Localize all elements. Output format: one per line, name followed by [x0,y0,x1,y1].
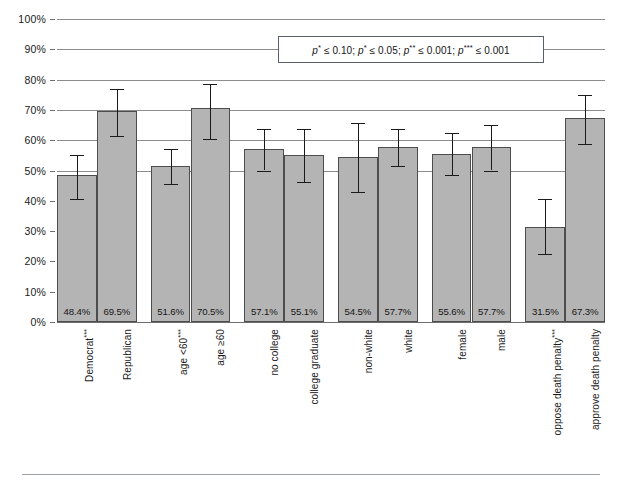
y-tick-mark [50,231,55,232]
category-label: age ≥60 [215,329,226,366]
error-bar-cap-lower [351,192,365,193]
gridline-60pct [57,140,605,141]
error-bar-cap-upper [445,133,459,134]
y-tick-mark [50,261,55,262]
gridline-100pct [57,19,605,20]
error-bar-cap-lower [445,175,459,176]
category-label: oppose death penalty*** [550,329,563,435]
y-tick-label: 50% [0,165,46,177]
y-tick-label: 40% [0,195,46,207]
error-bar-cap-upper [351,123,365,124]
y-tick-mark [50,110,55,111]
y-tick-label: 60% [0,134,46,146]
error-bar [117,89,118,137]
category-label: no college [269,329,280,376]
y-tick-label: 20% [0,255,46,267]
gridline-50pct [57,171,605,172]
chart-figure: p* ≤ 0.10; p* ≤ 0.05; p** ≤ 0.001; p*** … [0,0,621,498]
y-tick-mark [50,322,55,323]
error-bar [304,129,305,182]
error-bar-cap-lower [70,199,84,200]
error-bar [264,129,265,171]
error-bar [171,149,172,184]
y-tick-mark [50,80,55,81]
bar-value-label: 57.7% [378,306,418,317]
error-bar-cap-lower [257,171,271,172]
error-bar-cap-lower [578,144,592,145]
bar-value-label: 55.6% [432,306,472,317]
error-bar-cap-upper [297,129,311,130]
bar-value-label: 55.1% [284,306,324,317]
category-label: Republican [122,329,133,380]
error-bar [398,129,399,166]
error-bar [545,199,546,255]
y-tick-label: 10% [0,286,46,298]
y-tick-label: 100% [0,13,46,25]
error-bar [77,155,78,199]
error-bar-cap-upper [484,125,498,126]
bar-value-label: 57.1% [244,306,284,317]
y-tick-label: 70% [0,104,46,116]
error-bar-cap-lower [110,136,124,137]
category-label: non-white [363,329,374,373]
y-tick-mark [50,171,55,172]
error-bar-cap-upper [578,95,592,96]
category-label: Democrat*** [82,329,95,382]
error-bar [210,84,211,139]
bar[interactable] [97,111,137,322]
bar-value-label: 70.5% [191,306,231,317]
error-bar-cap-upper [257,129,271,130]
significance-note-text: p* ≤ 0.10; p* ≤ 0.05; p** ≤ 0.001; p*** … [312,43,509,56]
error-bar-cap-lower [538,254,552,255]
category-label: male [496,329,507,351]
y-tick-label: 30% [0,225,46,237]
y-tick-mark [50,19,55,20]
error-bar-cap-lower [297,182,311,183]
gridline-70pct [57,110,605,111]
footer-rule [22,474,600,475]
error-bar-cap-upper [538,199,552,200]
bar-value-label: 67.3% [565,306,605,317]
bar[interactable] [244,149,284,322]
category-label: college graduate [309,329,320,405]
y-tick-mark [50,292,55,293]
gridline-0% [57,322,605,323]
category-label: approve death penalty [590,329,601,430]
bar[interactable] [378,147,418,322]
bar-value-label: 54.5% [338,306,378,317]
error-bar-cap-upper [164,149,178,150]
error-bar-cap-lower [164,184,178,185]
y-tick-mark [50,201,55,202]
error-bar [585,95,586,144]
y-tick-label: 90% [0,43,46,55]
gridline-80pct [57,80,605,81]
bar-value-label: 57.7% [472,306,512,317]
bar[interactable] [472,147,512,322]
bar[interactable] [151,166,191,322]
category-label: female [457,329,468,360]
error-bar-cap-upper [110,89,124,90]
error-bar-cap-lower [484,171,498,172]
category-label: white [403,329,414,353]
error-bar [491,125,492,170]
category-label: age <60*** [176,329,189,375]
y-tick-mark [50,140,55,141]
bar-value-label: 48.4% [57,306,97,317]
bar-value-label: 69.5% [97,306,137,317]
bar[interactable] [565,118,605,322]
error-bar-cap-upper [70,155,84,156]
bar-value-label: 31.5% [525,306,565,317]
significance-note: p* ≤ 0.10; p* ≤ 0.05; p** ≤ 0.001; p*** … [278,36,544,63]
y-tick-mark [50,49,55,50]
error-bar [358,123,359,192]
plot-area: 48.4%69.5%51.6%70.5%57.1%55.1%54.5%57.7%… [57,19,605,322]
error-bar [452,133,453,175]
error-bar-cap-lower [203,139,217,140]
error-bar-cap-upper [203,84,217,85]
bar-value-label: 51.6% [151,306,191,317]
bar[interactable] [191,108,231,322]
bar[interactable] [432,154,472,322]
y-tick-label: 0% [0,316,46,328]
error-bar-cap-lower [391,166,405,167]
error-bar-cap-upper [391,129,405,130]
